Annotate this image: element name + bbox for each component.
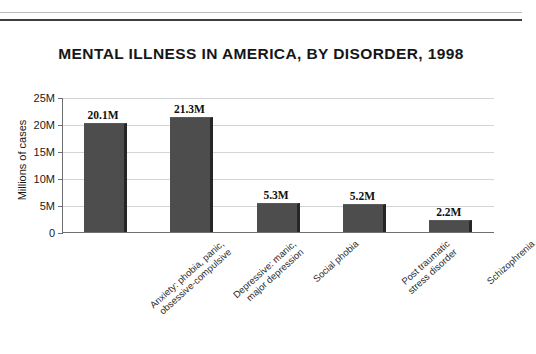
x-axis-category-label: Anxiety: phobia, panic,obsessive-compuls… — [148, 238, 234, 318]
y-axis-title: Millions of cases — [16, 90, 28, 230]
header-rule-thin — [0, 12, 522, 13]
bar: 21.3M — [170, 117, 213, 232]
y-axis-tick-mark — [58, 125, 63, 126]
y-axis-tick-label: 20M — [34, 119, 55, 131]
gridline — [62, 125, 494, 126]
bar: 5.3M — [257, 203, 300, 232]
x-axis-category-label-line: Schizophrenia — [484, 238, 536, 286]
y-axis-tick-label: 10M — [34, 173, 55, 185]
bar-chart: Millions of cases 05M10M15M20M25M 20.1M2… — [0, 86, 522, 354]
y-axis-tick-mark — [58, 206, 63, 207]
gridline — [62, 179, 494, 180]
x-axis-category-label-line: Social phobia — [311, 238, 361, 284]
y-axis-tick-label: 0 — [49, 227, 55, 239]
y-axis-tick-mark — [58, 152, 63, 153]
y-axis-tick-label: 15M — [34, 146, 55, 158]
bar-value-label: 21.3M — [174, 103, 205, 115]
chart-title: MENTAL ILLNESS IN AMERICA, BY DISORDER, … — [0, 45, 522, 63]
plot-area: 05M10M15M20M25M 20.1M21.3M5.3M5.2M2.2M — [62, 98, 494, 233]
x-axis-category-label: Schizophrenia — [484, 238, 536, 286]
bar: 5.2M — [343, 204, 386, 232]
bar: 2.2M — [429, 220, 472, 232]
bar-value-label: 20.1M — [88, 109, 119, 121]
y-axis-tick-mark — [58, 179, 63, 180]
header-rule-thick — [0, 19, 522, 21]
bar-value-label: 2.2M — [436, 206, 461, 218]
y-axis-tick-label: 5M — [40, 200, 55, 212]
gridline — [62, 152, 494, 153]
x-axis-line — [62, 232, 494, 233]
x-axis-category-label: Social phobia — [311, 238, 361, 284]
y-axis-tick-mark — [58, 233, 63, 234]
bar-value-label: 5.3M — [263, 189, 288, 201]
y-axis-tick-label: 25M — [34, 92, 55, 104]
y-axis-tick-mark — [58, 98, 63, 99]
gridline — [62, 98, 494, 99]
bar: 20.1M — [84, 123, 127, 232]
x-axis-category-label: Post traumaticstress disorder — [398, 238, 459, 296]
y-axis-line — [62, 98, 63, 233]
x-axis-category-label-line: Anxiety: phobia, panic, — [148, 238, 226, 310]
bar-value-label: 5.2M — [350, 190, 375, 202]
x-axis-category-label: Depressive: manic,major depression — [230, 238, 305, 308]
x-axis-category-label-line: obsessive-compulsive — [155, 246, 233, 318]
